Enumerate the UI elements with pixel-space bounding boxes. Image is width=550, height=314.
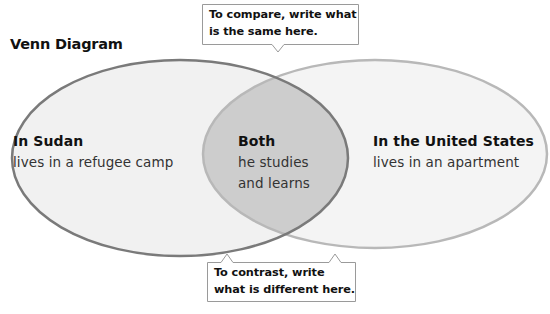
contrast-callout: To contrast, write what is different her… bbox=[207, 262, 356, 302]
right-set-heading: In the United States bbox=[373, 131, 534, 152]
compare-callout-line2: is the same here. bbox=[209, 24, 353, 41]
contrast-callout-line2: what is different here. bbox=[214, 282, 350, 299]
compare-callout-line1: To compare, write what bbox=[209, 7, 353, 24]
overlap-item: and learns bbox=[238, 173, 310, 194]
left-set-label: In Sudan lives in a refugee camp bbox=[13, 131, 173, 173]
left-set-heading: In Sudan bbox=[13, 131, 173, 152]
overlap-label: Both he studies and learns bbox=[238, 131, 310, 194]
overlap-heading: Both bbox=[238, 131, 310, 152]
contrast-callout-line1: To contrast, write bbox=[214, 265, 350, 282]
overlap-item: he studies bbox=[238, 152, 310, 173]
right-set-label: In the United States lives in an apartme… bbox=[373, 131, 534, 173]
left-set-item: lives in a refugee camp bbox=[13, 152, 173, 173]
right-set-item: lives in an apartment bbox=[373, 152, 534, 173]
compare-callout: To compare, write what is the same here. bbox=[202, 4, 359, 44]
